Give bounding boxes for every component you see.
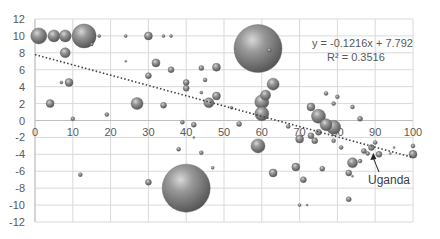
bubble (234, 25, 282, 73)
bubble (162, 164, 210, 212)
bubble (352, 175, 354, 177)
bubble (60, 81, 63, 84)
bubble (78, 173, 82, 177)
annotation-uganda: Uganda (368, 153, 410, 187)
bubble (366, 151, 370, 155)
x-tick-label: 10 (67, 126, 79, 138)
bubble (200, 91, 203, 94)
bubble (162, 34, 165, 37)
x-tick-label: 50 (218, 126, 230, 138)
bubble (389, 152, 391, 154)
bubble (125, 60, 127, 62)
bubble (324, 91, 328, 95)
bubble (183, 79, 189, 85)
annotation-arrow (373, 158, 379, 172)
bubble (193, 136, 195, 138)
bubble (212, 63, 220, 71)
bubble (267, 48, 271, 52)
bubble (351, 105, 355, 109)
y-tick-label: 10 (13, 30, 25, 42)
y-tick-label: -4 (15, 148, 25, 160)
bubble (346, 197, 351, 202)
bubble (60, 48, 70, 58)
y-tick-label: 4 (19, 81, 25, 93)
y-axis-ticks: 121086420-2-4-6-8-10-12 (9, 13, 25, 228)
y-tick-label: -6 (15, 165, 25, 177)
bubble (339, 146, 343, 150)
bubble (307, 103, 315, 111)
bubble (332, 102, 336, 106)
y-tick-label: -2 (15, 131, 25, 143)
bubble (411, 144, 415, 148)
bubble (316, 129, 322, 135)
bubble (124, 34, 127, 37)
trendline-equation: y = -0.1216x + 7.792 (312, 37, 413, 49)
bubble (358, 116, 363, 121)
x-tick-label: 20 (104, 126, 116, 138)
bubble (312, 138, 318, 144)
bubble (269, 169, 277, 177)
y-tick-label: 8 (19, 47, 25, 59)
bubble (131, 98, 143, 110)
bubble (204, 98, 214, 108)
bubble (306, 204, 308, 206)
y-tick-label: 0 (19, 115, 25, 127)
bubble (298, 204, 301, 207)
bubble (251, 139, 265, 153)
bubble (300, 177, 306, 183)
x-axis-ticks: 0102030405060708090100 (32, 126, 422, 138)
bubble (376, 151, 382, 157)
bubble (183, 85, 189, 91)
grid-lines (35, 19, 413, 222)
bubble (199, 151, 203, 155)
bubble (373, 140, 377, 144)
x-tick-label: 30 (142, 126, 154, 138)
x-tick-label: 40 (180, 126, 192, 138)
bubble (335, 95, 339, 99)
bubble (90, 43, 93, 46)
bubble (145, 179, 151, 185)
bubble (261, 90, 271, 100)
bubble (292, 163, 300, 171)
y-tick-label: -8 (15, 182, 25, 194)
bubble (203, 78, 207, 82)
bubble (98, 34, 101, 37)
x-tick-label: 0 (32, 126, 38, 138)
bubble (105, 113, 109, 117)
annotation-label: Uganda (368, 173, 410, 187)
y-tick-label: -10 (9, 199, 25, 211)
bubble (59, 30, 71, 42)
y-tick-label: -12 (9, 216, 25, 228)
bubble (145, 73, 151, 79)
bubble (152, 59, 160, 67)
bubble (320, 166, 325, 171)
bubble (212, 92, 220, 100)
bubble (31, 28, 47, 44)
bubble (237, 121, 242, 126)
bubble (180, 120, 184, 124)
bubble (346, 170, 352, 176)
bubble-chart: 121086420-2-4-6-8-10-12 0102030405060708… (0, 0, 440, 239)
bubble (255, 107, 269, 121)
x-tick-label: 90 (369, 126, 381, 138)
bubble (393, 147, 395, 149)
bubble (161, 102, 167, 108)
bubble (286, 124, 290, 128)
bubble (267, 78, 279, 90)
bubble (332, 139, 336, 143)
bubble (168, 67, 174, 73)
bubble (320, 119, 332, 131)
y-tick-label: 12 (13, 13, 25, 25)
bubble (65, 78, 73, 86)
bubble (211, 166, 214, 169)
bubble (46, 100, 54, 108)
bubble (358, 159, 362, 163)
bubble (48, 30, 60, 42)
y-tick-label: 6 (19, 64, 25, 76)
trendline-r-squared: R² = 0.3516 (327, 51, 385, 63)
bubble (308, 133, 314, 139)
bubble (170, 34, 173, 37)
x-tick-label: 100 (404, 126, 422, 138)
bubble (296, 135, 304, 143)
bubble (177, 147, 181, 151)
